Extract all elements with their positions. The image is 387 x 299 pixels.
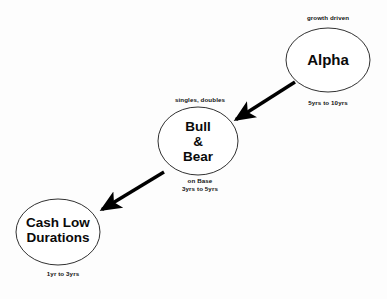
node-alpha[interactable]: growth driven Alpha 5yrs to 10yrs [286, 14, 370, 106]
node-bull-bear-label-line3: Bear [183, 149, 214, 164]
node-alpha-label: Alpha [307, 51, 349, 68]
node-bull-bear-caption-above: singles, doubles [175, 96, 226, 103]
node-alpha-caption-below: 5yrs to 10yrs [308, 99, 348, 106]
node-bull-bear-label-line2: & [193, 134, 203, 149]
node-cash-low-durations-caption-below: 1yr to 3yrs [47, 270, 80, 277]
node-cash-low-durations-label-line2: Durations [26, 230, 89, 245]
node-bull-bear[interactable]: singles, doubles Bull & Bear on Base 3yr… [158, 96, 238, 192]
arrow-line [102, 172, 164, 210]
node-bull-bear-caption-below-line1: on Base [188, 177, 213, 184]
node-bull-bear-caption-below-line2: 3yrs to 5yrs [182, 185, 218, 192]
arrow-line [236, 82, 295, 120]
node-bull-bear-label-line1: Bull [185, 119, 211, 134]
diagram-canvas: growth driven Alpha 5yrs to 10yrs single… [0, 0, 387, 299]
edge-alpha-to-bull-bear [236, 82, 295, 120]
node-alpha-caption-above: growth driven [307, 14, 349, 21]
edge-bull-bear-to-cash [102, 172, 164, 210]
node-cash-low-durations-label-line1: Cash Low [26, 215, 90, 230]
node-cash-low-durations[interactable]: Cash Low Durations 1yr to 3yrs [16, 199, 100, 277]
